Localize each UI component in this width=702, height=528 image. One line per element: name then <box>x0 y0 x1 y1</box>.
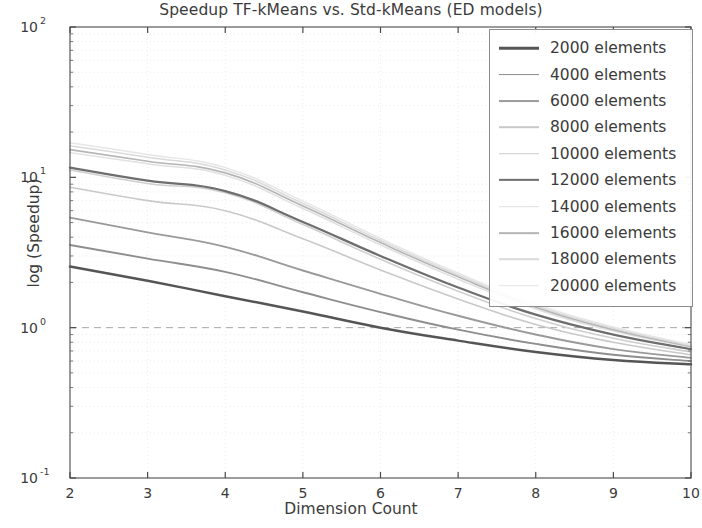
x-tick-label: 3 <box>143 485 152 501</box>
x-tick-label: 8 <box>531 485 540 501</box>
legend-entry-label: 4000 elements <box>550 66 666 84</box>
y-tick-label: 10 <box>20 470 38 486</box>
x-tick-label: 6 <box>376 485 385 501</box>
legend-entry-label: 16000 elements <box>550 224 676 242</box>
legend-entry-label: 8000 elements <box>550 118 666 136</box>
y-axis-label: log (Speedup) <box>25 153 43 313</box>
x-axis-label: Dimension Count <box>0 500 702 518</box>
legend-entry: 6000 elements <box>497 88 685 114</box>
legend-line-swatch <box>497 226 541 240</box>
legend-entry-label: 12000 elements <box>550 171 676 189</box>
legend-entry: 2000 elements <box>497 35 685 61</box>
legend-entry: 18000 elements <box>497 246 685 272</box>
legend-line-swatch <box>497 94 541 108</box>
y-tick-label: 10 <box>20 19 38 35</box>
legend-line-swatch <box>497 252 541 266</box>
legend-entry-label: 14000 elements <box>550 198 676 216</box>
chart-legend: 2000 elements4000 elements6000 elements8… <box>489 29 693 307</box>
legend-line-swatch <box>497 200 541 214</box>
x-tick-label: 5 <box>298 485 307 501</box>
legend-entry: 16000 elements <box>497 220 685 246</box>
legend-entry: 10000 elements <box>497 141 685 167</box>
legend-entry: 8000 elements <box>497 114 685 140</box>
legend-entry-label: 10000 elements <box>550 145 676 163</box>
legend-entry: 14000 elements <box>497 193 685 219</box>
y-tick-label: 10 <box>20 320 38 336</box>
legend-entry-label: 2000 elements <box>550 39 666 57</box>
legend-entry-label: 20000 elements <box>550 277 676 295</box>
chart-figure: Speedup TF-kMeans vs. Std-kMeans (ED mod… <box>0 0 702 528</box>
y-tick-exponent: 0 <box>40 316 46 327</box>
legend-line-swatch <box>497 68 541 82</box>
legend-entry-label: 6000 elements <box>550 92 666 110</box>
x-tick-label: 2 <box>66 485 75 501</box>
legend-entry-label: 18000 elements <box>550 250 676 268</box>
legend-line-swatch <box>497 279 541 293</box>
legend-entry: 20000 elements <box>497 273 685 299</box>
legend-entry: 4000 elements <box>497 61 685 87</box>
legend-line-swatch <box>497 147 541 161</box>
y-tick-exponent: 2 <box>40 15 46 26</box>
legend-line-swatch <box>497 173 541 187</box>
x-tick-label: 4 <box>221 485 230 501</box>
x-tick-label: 10 <box>682 485 700 501</box>
y-tick-exponent: -1 <box>40 466 49 477</box>
legend-line-swatch <box>497 120 541 134</box>
x-tick-label: 7 <box>454 485 463 501</box>
legend-line-swatch <box>497 41 541 55</box>
x-tick-label: 9 <box>609 485 618 501</box>
legend-entry: 12000 elements <box>497 167 685 193</box>
